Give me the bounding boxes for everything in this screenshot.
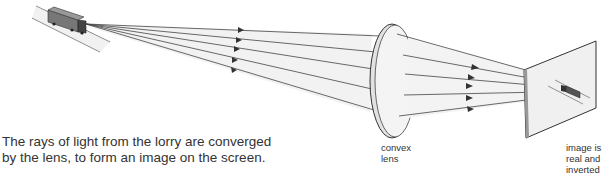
- caption: The rays of light from the lorry are con…: [2, 134, 342, 166]
- screen-icon: [524, 41, 596, 138]
- screen-label-line-2: real and: [566, 153, 601, 164]
- screen-label-line-3: inverted: [566, 164, 601, 174]
- caption-line-2: by the lens, to form an image on the scr…: [2, 150, 342, 166]
- lens-label-line-2: lens: [381, 153, 411, 164]
- lens-label: convex lens: [381, 142, 411, 164]
- caption-line-1: The rays of light from the lorry are con…: [2, 134, 342, 150]
- lens-label-line-1: convex: [381, 142, 411, 153]
- screen-label-line-1: image is: [566, 142, 601, 153]
- screen-label: image is real and inverted: [566, 142, 601, 174]
